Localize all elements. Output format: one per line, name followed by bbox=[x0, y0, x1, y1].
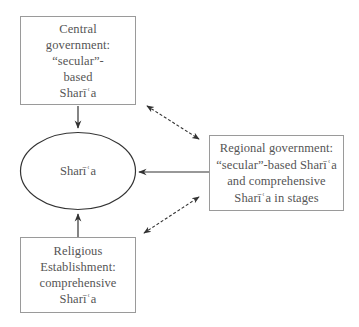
node-central-government: Central government: “secular”- based Sha… bbox=[20, 16, 136, 105]
node-regional-government-label: Regional government: “secular”-based Sha… bbox=[216, 140, 337, 206]
dashed-arrow-religious-regional bbox=[144, 197, 199, 233]
node-regional-government: Regional government: “secular”-based Sha… bbox=[209, 135, 344, 211]
node-sharia-label: Sharīʿa bbox=[20, 132, 136, 210]
dashed-arrow-central-regional bbox=[147, 106, 199, 139]
node-religious-establishment: Religious Establishment: comprehensive S… bbox=[20, 237, 136, 313]
node-central-government-label: Central government: “secular”- based Sha… bbox=[46, 21, 110, 101]
node-religious-establishment-label: Religious Establishment: comprehensive S… bbox=[40, 243, 117, 307]
